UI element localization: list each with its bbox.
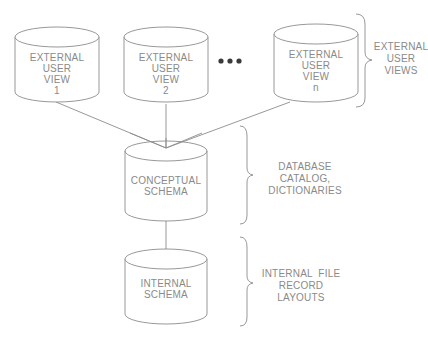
annotation-external-user-views: EXTERNAL USER VIEWS — [374, 41, 428, 76]
view-label-line3: VIEW — [44, 74, 71, 85]
ellipsis-dots-icon — [218, 58, 241, 63]
annotation-line1: DATABASE — [278, 161, 332, 172]
conceptual-label-line2: SCHEMA — [144, 186, 188, 197]
annotation-database-catalog: DATABASE CATALOG, DICTIONARIES — [268, 161, 342, 196]
cylinder-external-view-2: EXTERNAL USER VIEW 2 — [124, 27, 208, 102]
conceptual-label-line1: CONCEPTUAL — [131, 175, 202, 186]
cylinder-internal-schema: INTERNAL SCHEMA — [125, 249, 207, 324]
view-label-line1: EXTERNAL — [30, 52, 85, 63]
annotation-internal-file-layouts: INTERNAL FILE RECORD LAYOUTS — [262, 268, 341, 303]
view-label-line2: USER — [302, 60, 331, 71]
annotation-line2: USER — [387, 53, 416, 64]
three-schema-diagram: EXTERNAL USER VIEW 1 EXTERNAL USER VIEW … — [0, 0, 428, 343]
cylinder-top — [125, 249, 207, 269]
cylinder-external-view-n: EXTERNAL USER VIEW n — [274, 24, 358, 102]
cylinder-conceptual-schema: CONCEPTUAL SCHEMA — [125, 141, 207, 221]
view-label-line4: 1 — [54, 85, 60, 96]
connector-viewn-to-conceptual — [166, 102, 290, 148]
annotation-line3: DICTIONARIES — [268, 185, 342, 196]
cylinder-top — [274, 24, 358, 44]
view-label-line2: USER — [43, 63, 72, 74]
brace-internal-icon — [240, 237, 253, 326]
cylinder-external-view-1: EXTERNAL USER VIEW 1 — [15, 27, 99, 102]
annotation-line1: EXTERNAL — [374, 41, 428, 52]
view-label-line4: 2 — [163, 85, 169, 96]
annotation-line2: RECORD — [279, 280, 324, 291]
internal-label-line2: SCHEMA — [144, 289, 188, 300]
annotation-line3: VIEWS — [384, 65, 417, 76]
view-label-line4: n — [313, 82, 319, 93]
cylinder-top — [15, 27, 99, 47]
view-label-line2: USER — [152, 63, 181, 74]
view-label-line3: VIEW — [153, 74, 180, 85]
view-label-line1: EXTERNAL — [139, 52, 194, 63]
annotation-line1: INTERNAL FILE — [262, 268, 341, 279]
view-label-line1: EXTERNAL — [289, 49, 344, 60]
annotation-line3: LAYOUTS — [277, 292, 324, 303]
view-label-line3: VIEW — [303, 71, 330, 82]
cylinder-top — [124, 27, 208, 47]
internal-label-line1: INTERNAL — [140, 278, 191, 289]
brace-conceptual-icon — [240, 126, 253, 224]
annotation-line2: CATALOG, — [280, 173, 331, 184]
